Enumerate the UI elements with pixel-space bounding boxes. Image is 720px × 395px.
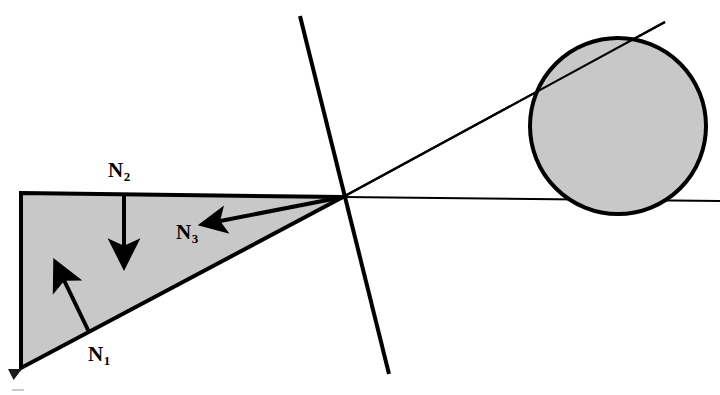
label-n1-base: N — [88, 342, 103, 366]
shaded-circle — [530, 38, 706, 214]
label-n1: N1 — [88, 344, 110, 365]
label-n2-sub: 2 — [124, 169, 131, 184]
label-n1-sub: 1 — [104, 353, 111, 368]
scan-artifact-smudge — [12, 389, 24, 391]
figure-canvas: N1 N2 N3 — [0, 0, 720, 395]
geometry-diagram — [0, 0, 720, 395]
label-n2-base: N — [108, 158, 123, 182]
label-n3-base: N — [176, 220, 191, 244]
label-n3: N3 — [176, 222, 198, 243]
label-n3-sub: 3 — [192, 231, 199, 246]
label-n2: N2 — [108, 160, 130, 181]
